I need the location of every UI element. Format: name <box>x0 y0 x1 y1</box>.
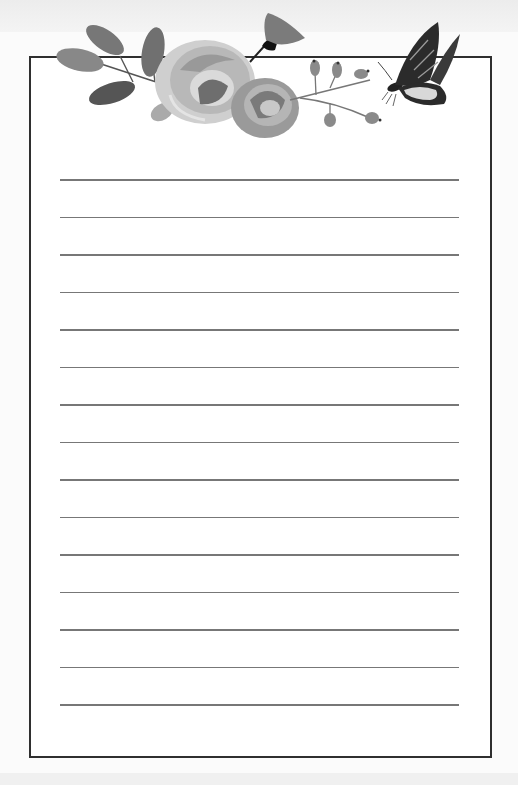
writing-line <box>60 592 459 594</box>
writing-line <box>60 517 459 519</box>
writing-line <box>60 404 459 406</box>
page-border-frame <box>29 56 492 758</box>
writing-line <box>60 329 459 331</box>
top-background-band <box>0 0 518 32</box>
writing-line <box>60 179 459 181</box>
writing-line <box>60 667 459 669</box>
writing-line <box>60 629 459 631</box>
bottom-background-band <box>0 773 518 785</box>
writing-line <box>60 704 459 706</box>
writing-line <box>60 442 459 444</box>
writing-line <box>60 367 459 369</box>
writing-line <box>60 254 459 256</box>
writing-line <box>60 292 459 294</box>
writing-line <box>60 554 459 556</box>
writing-line <box>60 479 459 481</box>
writing-line <box>60 217 459 219</box>
